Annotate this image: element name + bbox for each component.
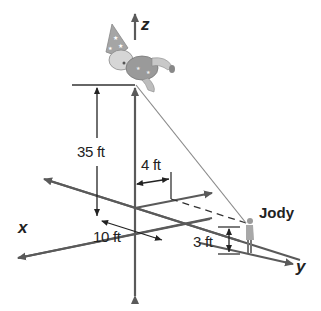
svg-text:★: ★	[108, 45, 113, 51]
x-axis	[18, 179, 300, 260]
person-height-label: 3 ft	[193, 233, 213, 250]
svg-text:★: ★	[118, 42, 123, 49]
offset-x-label: 10 ft	[93, 228, 121, 245]
z-axis-label: z	[141, 15, 150, 35]
person-name-label: Jody	[259, 204, 294, 221]
offset-y-label: 4 ft	[141, 156, 161, 173]
x-axis-label: x	[18, 218, 27, 238]
svg-text:★: ★	[136, 65, 141, 71]
diagram: ★ ★ ★ ★ ★ z x y 35 ft 4 ft 10 ft 3 ft Jo…	[0, 0, 321, 311]
svg-text:★: ★	[146, 69, 151, 75]
offset-y-dimension	[137, 172, 171, 199]
balloon-string	[136, 85, 246, 223]
person-figure	[246, 218, 254, 253]
height-label: 35 ft	[77, 143, 105, 160]
svg-text:★: ★	[113, 34, 118, 41]
y-axis-label: y	[296, 257, 305, 277]
